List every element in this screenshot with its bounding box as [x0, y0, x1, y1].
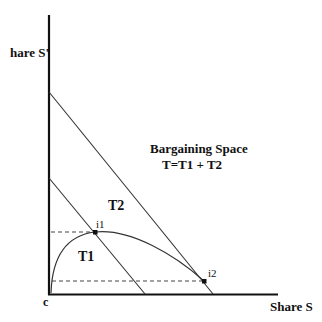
- y-axis-label: hare S': [10, 45, 49, 61]
- outer-constraint-line: [49, 92, 213, 294]
- point-i2-label: i2: [208, 267, 217, 279]
- region-t1-label: T1: [78, 249, 94, 265]
- origin-label: c: [43, 295, 48, 310]
- bargaining-space-title: Bargaining Space: [150, 141, 248, 157]
- point-i1-label: i1: [96, 218, 105, 230]
- region-t2-label: T2: [108, 198, 124, 214]
- point-i1-marker: [93, 230, 98, 235]
- x-axis-label: Share S: [270, 299, 313, 315]
- contract-curve: [51, 232, 204, 293]
- bargaining-space-formula: T=T1 + T2: [162, 157, 222, 173]
- point-i2-marker: [202, 279, 207, 284]
